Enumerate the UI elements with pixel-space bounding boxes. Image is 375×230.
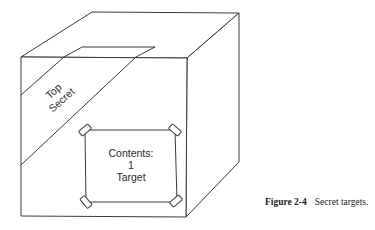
box-illustration: Top Secret Contents: 1 Target	[0, 0, 375, 230]
shipping-label-line2: 1	[128, 159, 134, 171]
figure-caption: Figure 2-4Secret targets.	[265, 197, 368, 207]
shipping-label-line3: Target	[116, 171, 145, 183]
shipping-label-line1: Contents:	[109, 147, 154, 159]
figure-caption-text: Secret targets.	[315, 197, 369, 207]
figure-number: Figure 2-4	[265, 197, 307, 207]
